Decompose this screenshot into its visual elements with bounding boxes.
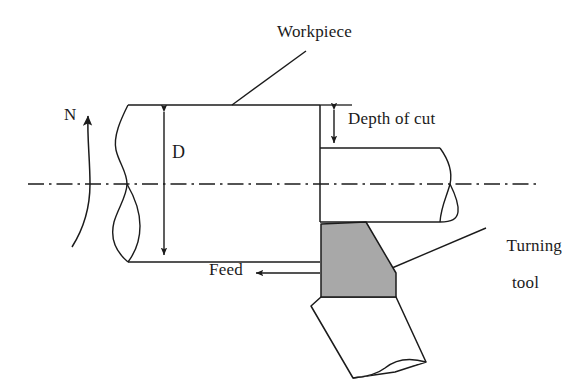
label-turning-tool-line1: Turning xyxy=(507,236,563,255)
label-workpiece: Workpiece xyxy=(277,23,352,41)
rotation-arrow xyxy=(72,116,90,247)
tool-shank xyxy=(311,297,426,378)
turning-tool-leader-line xyxy=(392,228,486,268)
workpiece-leader-line xyxy=(232,51,306,105)
label-depth-of-cut: Depth of cut xyxy=(348,110,435,128)
label-turning-tool: Turning tool xyxy=(489,219,562,329)
label-rotation-speed: N xyxy=(64,106,76,124)
cutting-insert xyxy=(321,222,396,297)
label-diameter: D xyxy=(172,143,185,162)
diagram-canvas xyxy=(0,0,574,386)
turning-operation-diagram: Workpiece N D Depth of cut Feed Turning … xyxy=(0,0,574,386)
label-feed: Feed xyxy=(209,261,243,279)
label-turning-tool-line2: tool xyxy=(489,274,562,292)
